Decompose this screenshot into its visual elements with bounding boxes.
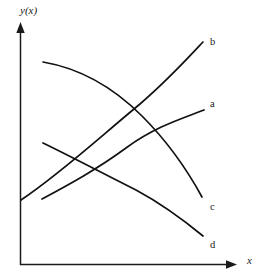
curve-label-a: a: [210, 99, 215, 110]
x-axis-label: x: [247, 255, 252, 266]
curve-label-c: c: [210, 202, 215, 213]
curve-label-b: b: [210, 37, 215, 48]
curve-c: [43, 62, 202, 197]
plot-area: [0, 0, 264, 278]
curve-d: [43, 143, 203, 236]
curve-label-d: d: [210, 240, 215, 251]
x-axis-arrow-icon: [226, 260, 237, 268]
figure-canvas: y(x) x b a c d: [0, 0, 264, 278]
y-axis-arrow-icon: [16, 22, 24, 33]
y-axis-label: y(x): [20, 5, 37, 16]
